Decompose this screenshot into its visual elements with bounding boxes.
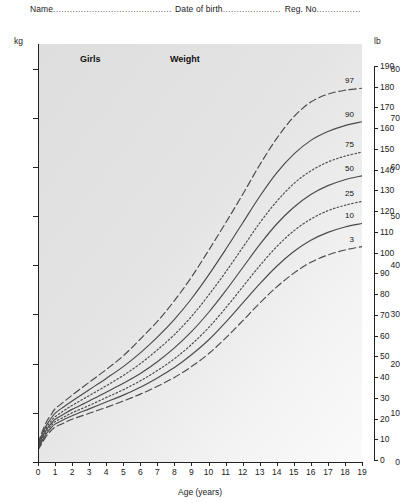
y-tick-kg xyxy=(33,118,38,119)
lb-tick-label: 130 xyxy=(380,186,400,195)
percentile-label-97: 97 xyxy=(336,77,354,85)
lb-tick xyxy=(374,377,378,378)
x-axis-title: Age (years) xyxy=(0,487,400,497)
lb-tick xyxy=(374,232,378,233)
lb-axis-line xyxy=(374,66,375,460)
lb-tick xyxy=(374,460,378,461)
y-tick-kg xyxy=(33,314,38,315)
x-tick xyxy=(89,462,90,466)
x-tick-label: 14 xyxy=(268,468,286,477)
lb-tick xyxy=(374,128,378,129)
x-tick xyxy=(311,462,312,466)
lb-tick-label: 30 xyxy=(380,394,400,403)
y-axis-line xyxy=(38,44,39,463)
growth-chart-page: Name ...................................… xyxy=(0,0,400,503)
lb-tick xyxy=(374,253,378,254)
date-of-birth-label: Date of birth xyxy=(175,4,223,14)
x-tick-label: 17 xyxy=(319,468,337,477)
x-tick xyxy=(226,462,227,466)
lb-tick xyxy=(374,336,378,337)
reg-no-label: Reg. No xyxy=(285,4,317,14)
lb-tick-label: 90 xyxy=(380,269,400,278)
x-tick xyxy=(277,462,278,466)
y-tick-kg xyxy=(33,364,38,365)
y-tick-kg xyxy=(33,265,38,266)
lb-tick-label: 160 xyxy=(380,124,400,133)
x-tick-label: 15 xyxy=(285,468,303,477)
x-tick xyxy=(328,462,329,466)
lb-tick-label: 40 xyxy=(380,373,400,382)
chart-subject-label: Girls xyxy=(80,54,101,64)
x-tick-label: 5 xyxy=(114,468,132,477)
lb-tick-label: 170 xyxy=(380,103,400,112)
lb-tick-label: 70 xyxy=(380,311,400,320)
x-tick-label: 4 xyxy=(97,468,115,477)
y-tick-kg xyxy=(33,413,38,414)
plot-area xyxy=(38,44,362,462)
lb-tick-label: 190 xyxy=(380,62,400,71)
lb-tick-label: 0 xyxy=(380,456,400,465)
y-tick-kg xyxy=(33,216,38,217)
lb-tick xyxy=(374,190,378,191)
lb-tick-label: 50 xyxy=(380,352,400,361)
x-tick-label: 1 xyxy=(46,468,64,477)
x-tick xyxy=(140,462,141,466)
lb-tick-label: 10 xyxy=(380,435,400,444)
percentile-label-10: 10 xyxy=(336,212,354,220)
lb-tick-label: 180 xyxy=(380,83,400,92)
x-tick xyxy=(123,462,124,466)
lb-tick-label: 140 xyxy=(380,166,400,175)
percentile-curves xyxy=(38,44,362,462)
x-tick-label: 8 xyxy=(165,468,183,477)
lb-tick-label: 150 xyxy=(380,145,400,154)
lb-tick xyxy=(374,315,378,316)
lb-tick xyxy=(374,419,378,420)
name-label: Name xyxy=(30,4,53,14)
x-tick xyxy=(209,462,210,466)
patient-info-header: Name ...................................… xyxy=(0,4,400,24)
y-tick-kg xyxy=(33,167,38,168)
chart-title: Weight xyxy=(170,54,200,64)
percentile-label-75: 75 xyxy=(336,141,354,149)
x-tick-label: 9 xyxy=(182,468,200,477)
y-axis-unit-kg: kg xyxy=(14,36,23,46)
x-tick-label: 3 xyxy=(80,468,98,477)
lb-tick-label: 110 xyxy=(380,228,400,237)
x-tick-label: 16 xyxy=(302,468,320,477)
lb-tick-label: 20 xyxy=(380,415,400,424)
percentile-label-50: 50 xyxy=(336,165,354,173)
lb-tick-label: 60 xyxy=(380,332,400,341)
lb-tick xyxy=(374,170,378,171)
lb-tick xyxy=(374,294,378,295)
lb-tick xyxy=(374,66,378,67)
x-tick xyxy=(243,462,244,466)
lb-tick xyxy=(374,439,378,440)
x-tick-label: 2 xyxy=(63,468,81,477)
x-tick xyxy=(294,462,295,466)
lb-tick-label: 100 xyxy=(380,249,400,258)
x-tick-label: 19 xyxy=(353,468,371,477)
lb-tick xyxy=(374,356,378,357)
x-tick-label: 13 xyxy=(251,468,269,477)
x-axis-line xyxy=(38,462,362,463)
x-tick xyxy=(362,462,363,466)
reg-no-field[interactable]: ................ xyxy=(317,4,365,14)
x-tick xyxy=(191,462,192,466)
y-axis-unit-lb: lb xyxy=(374,36,381,46)
lb-tick xyxy=(374,273,378,274)
percentile-curve-90 xyxy=(38,122,362,445)
x-tick-label: 7 xyxy=(148,468,166,477)
x-tick xyxy=(174,462,175,466)
x-tick xyxy=(38,462,39,466)
date-of-birth-field[interactable]: ..................... xyxy=(223,4,281,14)
name-field[interactable]: ........................................… xyxy=(53,4,171,14)
percentile-curve-97 xyxy=(38,88,362,443)
lb-tick-label: 120 xyxy=(380,207,400,216)
y-tick-kg xyxy=(33,69,38,70)
x-tick-label: 11 xyxy=(217,468,235,477)
lb-tick-label: 80 xyxy=(380,290,400,299)
percentile-label-25: 25 xyxy=(336,190,354,198)
lb-tick xyxy=(374,211,378,212)
lb-tick xyxy=(374,87,378,88)
x-tick xyxy=(55,462,56,466)
